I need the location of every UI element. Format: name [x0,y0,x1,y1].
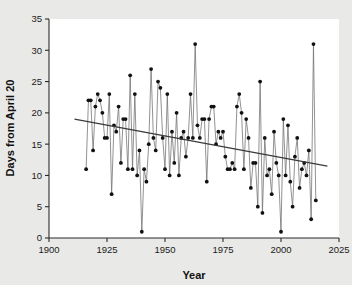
y-axis-title: Days from April 20 [4,80,16,177]
data-point [298,186,302,190]
data-point [149,67,153,71]
data-point [256,205,260,209]
data-point [163,167,167,171]
data-point [193,42,197,46]
data-point [212,105,216,109]
data-point [277,174,281,178]
data-point [133,92,137,96]
data-point [156,80,160,84]
data-point [207,117,211,121]
y-tick-label: 35 [31,13,42,24]
data-point [261,211,265,215]
data-point [186,136,190,140]
data-point [91,149,95,153]
data-point [228,167,232,171]
data-point [312,42,316,46]
data-point [307,149,311,153]
data-point [216,130,220,134]
data-point [314,199,318,203]
data-point [309,217,313,221]
data-point [147,142,151,146]
data-point [135,174,139,178]
data-point [221,130,225,134]
y-tick-label: 5 [37,201,42,212]
y-tick-label: 15 [31,139,42,150]
data-point [203,117,207,121]
data-point [177,174,181,178]
data-point [265,174,269,178]
data-point [182,130,186,134]
data-point [244,117,248,121]
data-point [196,123,200,127]
data-point [242,167,246,171]
data-point [281,117,285,121]
data-point [240,111,244,115]
data-point [165,92,169,96]
data-point [291,205,295,209]
y-tick-label: 0 [37,232,42,243]
data-point [98,98,102,102]
timeseries-chart: 05101520253035 190019251950197520002025 … [0,0,352,285]
data-point [205,180,209,184]
data-point [158,86,162,90]
data-point [288,180,292,184]
y-tick-label: 20 [31,107,42,118]
data-point [142,167,146,171]
data-point [223,155,227,159]
data-point [284,174,288,178]
data-point [189,92,193,96]
data-point [154,149,158,153]
data-point [114,130,118,134]
data-point [274,161,278,165]
data-point [184,155,188,159]
plot-area-background [49,19,339,238]
data-point [107,92,111,96]
data-point [168,174,172,178]
data-point [258,80,262,84]
data-point [219,136,223,140]
data-point [249,186,253,190]
data-point [272,130,276,134]
data-point [89,98,93,102]
x-tick-label: 2000 [270,244,291,255]
data-point [263,136,267,140]
data-point [126,167,130,171]
data-point [124,117,128,121]
data-point [233,167,237,171]
data-point [300,167,304,171]
data-point [295,136,299,140]
data-point [172,161,176,165]
data-point [198,136,202,140]
data-point [279,230,283,234]
data-point [110,192,114,196]
data-point [254,161,258,165]
data-point [230,161,234,165]
data-point [84,167,88,171]
x-tick-label: 1975 [212,244,233,255]
y-tick-label: 10 [31,170,42,181]
y-tick-label: 25 [31,76,42,87]
data-point [175,111,179,115]
data-point [235,105,239,109]
data-point [293,155,297,159]
x-tick-label: 1900 [38,244,59,255]
data-point [268,167,272,171]
data-point [140,230,144,234]
chart-figure: 05101520253035 190019251950197520002025 … [0,0,352,285]
data-point [270,192,274,196]
x-tick-label: 1925 [96,244,117,255]
data-point [152,136,156,140]
data-point [100,111,104,115]
data-point [237,92,241,96]
data-point [131,167,135,171]
y-tick-label: 30 [31,45,42,56]
data-point [119,161,123,165]
data-point [117,105,121,109]
data-point [145,180,149,184]
data-point [170,130,174,134]
x-tick-label: 1950 [154,244,175,255]
x-axis-title: Year [182,269,206,281]
x-tick-label: 2025 [328,244,349,255]
data-point [128,73,132,77]
data-point [286,123,290,127]
